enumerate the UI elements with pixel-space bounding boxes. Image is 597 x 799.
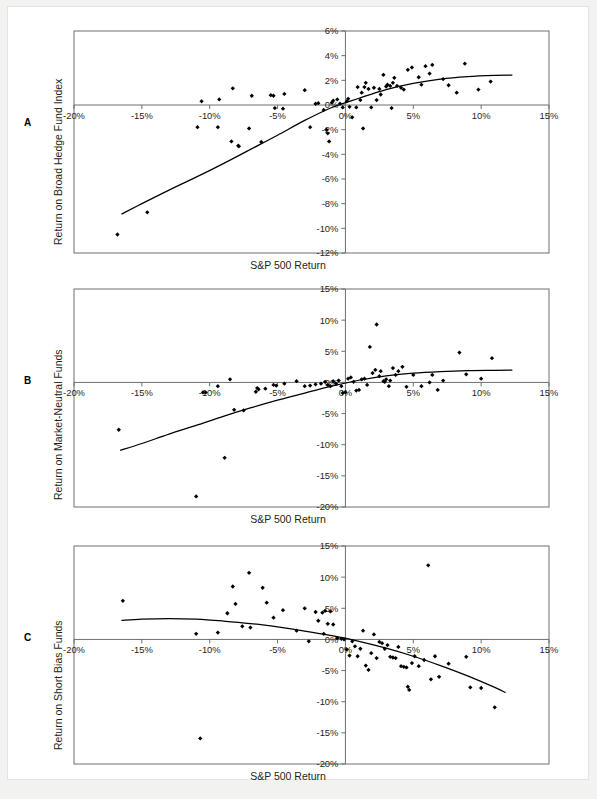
y-tick-label: -4% [322,149,339,160]
y-tick-label: -20% [317,758,339,769]
scatter-point [479,686,483,690]
scatter-point [391,366,395,370]
scatter-point [265,601,269,605]
scatter-point [463,62,467,66]
figure-root: A Return on Broad Hedge Fund Index S&P 5… [0,0,597,799]
scatter-point [250,94,254,98]
scatter-point [396,645,400,649]
y-tick-label: -20% [317,501,339,512]
x-tick-label: -5% [269,387,286,398]
x-tick-label: -10% [199,110,221,121]
y-tick-label: -5% [322,665,339,676]
scatter-point [396,369,400,373]
scatter-point [377,374,381,378]
scatter-point [430,63,434,67]
x-tick-label: -20% [63,644,85,655]
scatter-point [247,126,251,130]
x-tick-label: 0% [339,110,353,121]
scatter-point [446,83,450,87]
scatter-point [308,383,312,387]
scatter-point [369,651,373,655]
panel-a-plot: -20%-15%-10%-5%0%5%10%15%6%4%2%0%-2%-4%-… [8,7,588,275]
scatter-point [313,610,317,614]
y-tick-label: -6% [322,173,339,184]
scatter-point [417,75,421,79]
y-tick-label: 10% [320,572,339,583]
x-tick-label: -5% [269,644,286,655]
scatter-point [476,87,480,91]
scatter-point [361,126,365,130]
fit-curve [122,619,506,693]
scatter-point [231,584,235,588]
scatter-point [303,384,307,388]
scatter-point [303,606,307,610]
scatter-point [248,625,252,629]
scatter-point [229,139,233,143]
scatter-point [355,85,359,89]
scatter-point [430,373,434,377]
scatter-point [194,494,198,498]
scatter-point [368,345,372,349]
scatter-point [198,736,202,740]
scatter-point [423,64,427,68]
scatter-point [389,106,393,110]
x-tick-label: 15% [540,644,559,655]
scatter-point [361,629,365,633]
scatter-point [327,139,331,143]
scatter-point [225,611,229,615]
plot-frame [74,31,549,253]
y-tick-label: -10% [317,439,339,450]
scatter-point [281,608,285,612]
scatter-point [373,368,377,372]
x-tick-label: 5% [407,644,421,655]
x-tick-label: 5% [407,110,421,121]
scatter-point [457,350,461,354]
x-tick-label: -20% [63,387,85,398]
scatter-point [381,73,385,77]
panel-b-plot: -20%-15%-10%-5%0%5%10%15%15%10%5%0%-5%-1… [8,265,588,527]
scatter-point [488,79,492,83]
scatter-point [233,602,237,606]
scatter-points [121,563,497,740]
y-tick-label: -5% [322,408,339,419]
x-tick-label: -15% [131,644,153,655]
scatter-point [464,372,468,376]
scatter-point [364,663,368,667]
scatter-point [366,87,370,91]
scatter-point [271,615,275,619]
scatter-point [433,654,437,658]
scatter-point [493,705,497,709]
scatter-point [379,369,383,373]
panel-b: B Return on Market-Neutral Funds S&P 500… [8,265,588,527]
y-tick-label: 5% [325,346,339,357]
y-tick-label: 2% [325,75,339,86]
scatter-point [369,105,373,109]
scatter-point [410,661,414,665]
scatter-point [437,675,441,679]
scatter-point [410,65,414,69]
scatter-point [260,586,264,590]
scatter-point [468,685,472,689]
y-tick-label: 4% [325,50,339,61]
scatter-point [353,644,357,648]
scatter-point [351,380,355,384]
x-tick-label: -10% [199,644,221,655]
scatter-point [426,563,430,567]
x-tick-label: 5% [407,387,421,398]
scatter-points [117,322,495,498]
scatter-point [391,81,395,85]
scatter-point [303,88,307,92]
scatter-point [263,387,267,391]
scatter-point [464,655,468,659]
panel-a: A Return on Broad Hedge Fund Index S&P 5… [8,7,588,275]
scatter-point [490,356,494,360]
scatter-point [216,630,220,634]
scatter-point [217,97,221,101]
x-tick-label: -15% [131,110,153,121]
scatter-point [341,105,345,109]
scatter-points [115,62,493,237]
scatter-point [372,632,376,636]
scatter-point [360,91,364,95]
scatter-point [436,388,440,392]
x-tick-label: 15% [540,387,559,398]
